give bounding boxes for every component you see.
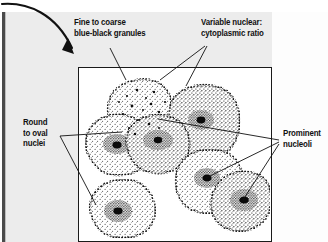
label-nuclear-cytoplasmic-ratio: Variable nuclear: cytoplasmic ratio bbox=[201, 17, 264, 38]
label-ratio-line1: Variable nuclear: bbox=[201, 17, 264, 28]
right-margin-plate bbox=[272, 12, 328, 242]
label-nuclei-line2: to oval bbox=[23, 128, 47, 139]
label-round-to-oval-nuclei: Round to oval nuclei bbox=[23, 117, 47, 149]
top-margin-plate bbox=[0, 0, 328, 12]
cell-cluster-drawing bbox=[79, 68, 270, 240]
label-nuclei-line1: Round bbox=[23, 117, 47, 128]
label-nucleoli-line2: nucleoli bbox=[283, 139, 321, 150]
label-prominent-nucleoli: Prominent nucleoli bbox=[283, 128, 321, 149]
label-granules-line2: blue-black granules bbox=[74, 28, 146, 39]
label-nucleoli-line1: Prominent bbox=[283, 128, 321, 139]
label-nuclei-line3: nuclei bbox=[23, 138, 47, 149]
page-edge-strip-inner bbox=[5, 12, 6, 242]
label-granules: Fine to coarse blue-black granules bbox=[74, 17, 146, 38]
label-granules-line1: Fine to coarse bbox=[74, 17, 146, 28]
label-ratio-line2: cytoplasmic ratio bbox=[201, 28, 264, 39]
cell-cluster-illustration bbox=[78, 67, 272, 242]
cell-bottom-left bbox=[90, 180, 155, 238]
figure-container: Fine to coarse blue-black granules Varia… bbox=[0, 0, 328, 242]
cell-bottom-right bbox=[211, 172, 270, 231]
